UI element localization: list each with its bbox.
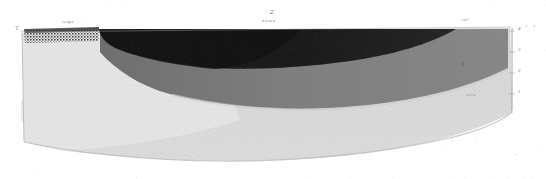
stratum-topsoil-stipple	[24, 27, 99, 43]
cross-section-plate: 2 niveau coupe sol 1 assise T ⌐ 4 3 2 1 …	[0, 0, 546, 179]
cross-section-figure	[0, 0, 546, 179]
